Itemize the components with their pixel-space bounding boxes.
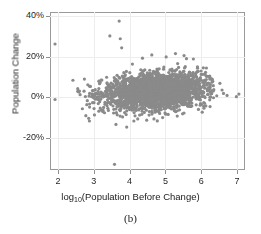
scatter-points bbox=[50, 12, 245, 170]
tick-label-x: 5 bbox=[150, 176, 180, 186]
tick-mark-x bbox=[201, 170, 202, 174]
tick-mark-x bbox=[58, 170, 59, 174]
plot-area bbox=[50, 12, 245, 170]
tick-mark-y bbox=[46, 138, 50, 139]
tick-label-x: 3 bbox=[79, 176, 109, 186]
tick-mark-y bbox=[46, 97, 50, 98]
tick-label-x: 2 bbox=[43, 176, 73, 186]
x-axis-label-subscript: 10 bbox=[74, 196, 82, 203]
tick-mark-x bbox=[237, 170, 238, 174]
figure-caption: (b) bbox=[0, 212, 261, 224]
tick-label-x: 4 bbox=[115, 176, 145, 186]
tick-mark-x bbox=[94, 170, 95, 174]
tick-mark-x bbox=[165, 170, 166, 174]
tick-mark-y bbox=[46, 16, 50, 17]
x-axis-label: log10(Population Before Change) bbox=[0, 191, 261, 202]
tick-mark-x bbox=[130, 170, 131, 174]
tick-label-x: 6 bbox=[186, 176, 216, 186]
figure-panel: 23456740%20%0%-20% log10(Population Befo… bbox=[0, 0, 261, 234]
tick-mark-y bbox=[46, 57, 50, 58]
y-axis-label: Population Change bbox=[10, 4, 21, 144]
x-axis-label-base: log bbox=[61, 191, 74, 202]
tick-label-x: 7 bbox=[222, 176, 252, 186]
x-axis-label-rest: (Population Before Change) bbox=[82, 191, 200, 202]
